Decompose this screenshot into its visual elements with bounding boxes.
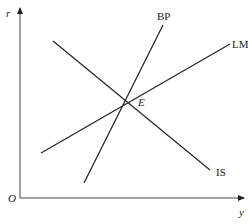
is-label: IS	[216, 166, 226, 178]
x-axis-label: y	[238, 206, 244, 218]
origin-label: O	[8, 192, 16, 204]
is-lm-bp-diagram: r O y LM IS BP E	[0, 0, 248, 224]
bp-label: BP	[157, 10, 170, 22]
equilibrium-label: E	[137, 96, 145, 108]
y-axis-label: r	[6, 7, 11, 19]
is-curve	[53, 41, 210, 170]
lm-curve	[41, 44, 230, 153]
bp-curve	[84, 25, 163, 183]
lm-label: LM	[232, 38, 248, 50]
